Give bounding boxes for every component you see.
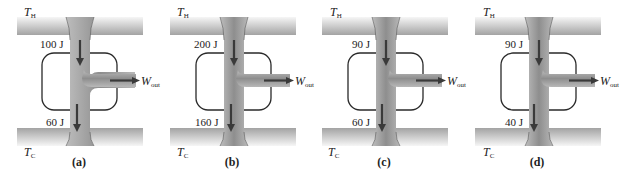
hot-reservoir-label: TH xyxy=(177,5,189,20)
panel-a: TH 100 J Wout 60 J TC (a) xyxy=(0,0,158,181)
heat-out-label: 60 J xyxy=(46,116,64,128)
cold-reservoir-label: TC xyxy=(483,145,494,160)
heat-out-label: 40 J xyxy=(505,116,523,128)
heat-in-label: 90 J xyxy=(352,38,370,50)
work-branch xyxy=(388,70,442,87)
hot-reservoir-label: TH xyxy=(330,5,342,20)
heat-out-label: 60 J xyxy=(352,116,370,128)
panel-d: TH 90 J Wout 40 J TC (d) xyxy=(465,0,623,181)
heat-in-label: 100 J xyxy=(40,38,64,50)
work-branch xyxy=(236,70,290,87)
work-out-label: Wout xyxy=(447,74,466,89)
panel-caption: (a) xyxy=(59,155,99,170)
work-out-label: Wout xyxy=(600,74,619,89)
cold-reservoir-label: TC xyxy=(24,145,35,160)
heat-in-label: 90 J xyxy=(505,38,523,50)
panel-caption: (b) xyxy=(212,155,252,170)
hot-reservoir-label: TH xyxy=(483,5,495,20)
heat-out-label: 160 J xyxy=(195,116,219,128)
panel-c: TH 90 J Wout 60 J TC (c) xyxy=(310,0,468,181)
panel-b: TH 200 J Wout 160 J TC (b) xyxy=(155,0,313,181)
panel-caption: (c) xyxy=(364,155,404,170)
heat-in-label: 200 J xyxy=(194,38,218,50)
cold-reservoir-label: TC xyxy=(328,145,339,160)
hot-reservoir-label: TH xyxy=(24,5,36,20)
cold-reservoir-label: TC xyxy=(177,145,188,160)
panel-caption: (d) xyxy=(517,155,557,170)
work-branch xyxy=(541,70,595,87)
